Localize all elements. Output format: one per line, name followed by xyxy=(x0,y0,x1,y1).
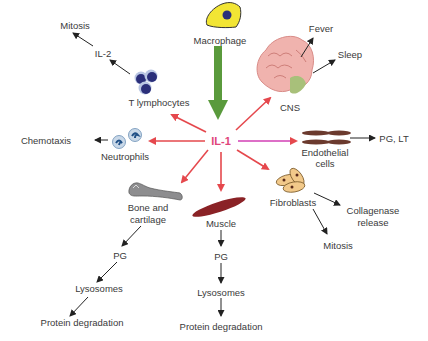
neutrophils-icon xyxy=(113,129,142,149)
t-lymphocyte-mitosis-label: Mitosis xyxy=(60,20,90,31)
bone-label-line1: Bone and xyxy=(128,202,169,213)
bone-label-line2: cartilage xyxy=(130,214,166,225)
cns-label: CNS xyxy=(280,102,300,113)
collagenase-label-line2: release xyxy=(357,217,388,228)
bone-pg-label: PG xyxy=(113,250,127,261)
neutrophils-label: Neutrophils xyxy=(101,151,149,162)
macrophage-cell-icon xyxy=(206,3,240,28)
il1-label: IL-1 xyxy=(211,135,231,147)
t-lymphocytes-icon xyxy=(135,70,158,95)
collagenase-label-line1: Collagenase xyxy=(347,205,400,216)
fibroblast-mitosis-label: Mitosis xyxy=(323,240,353,251)
downstream-arrows xyxy=(70,33,375,316)
macrophage-label: Macrophage xyxy=(194,35,247,46)
endothelial-label-line2: cells xyxy=(315,158,334,169)
bone-icon xyxy=(129,183,182,200)
muscle-label: Muscle xyxy=(206,218,236,229)
t-lymphocytes-label: T lymphocytes xyxy=(128,97,189,108)
muscle-lysosomes-label: Lysosomes xyxy=(197,287,245,298)
sleep-label: Sleep xyxy=(338,49,362,60)
fibroblasts-icon xyxy=(275,166,307,194)
brain-icon xyxy=(257,36,313,93)
endothelial-cells-icon xyxy=(302,131,351,145)
muscle-icon xyxy=(191,194,247,221)
macrophage-to-il1-arrow xyxy=(208,46,228,120)
pg-lt-label: PG, LT xyxy=(379,133,408,144)
fever-label: Fever xyxy=(309,23,333,34)
endothelial-label-line1: Endothelial xyxy=(301,147,348,158)
muscle-protein-degradation-label: Protein degradation xyxy=(180,321,263,332)
bone-lysosomes-label: Lysosomes xyxy=(75,283,123,294)
bone-protein-degradation-label: Protein degradation xyxy=(41,317,124,328)
fibroblasts-label: Fibroblasts xyxy=(270,197,316,208)
chemotaxis-label: Chemotaxis xyxy=(21,135,71,146)
muscle-pg-label: PG xyxy=(214,251,228,262)
il2-label: IL-2 xyxy=(95,48,111,59)
